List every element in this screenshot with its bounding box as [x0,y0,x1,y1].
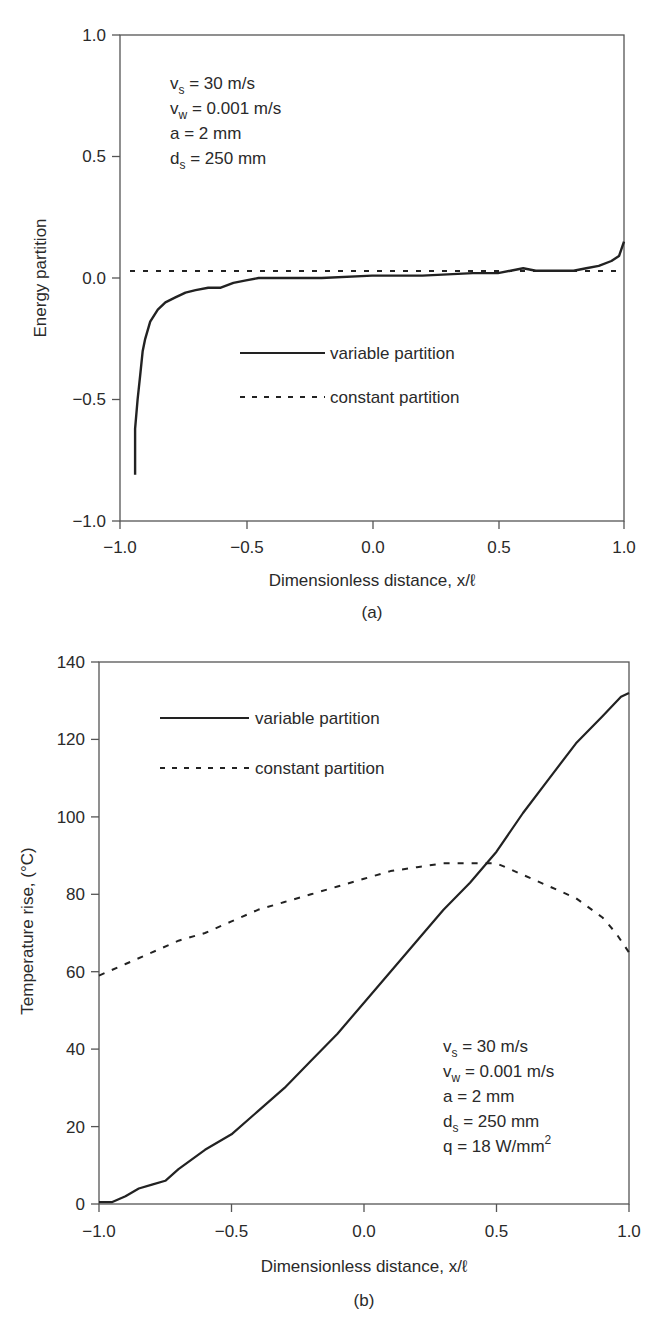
param-ds: ds = 250 mm [170,149,266,172]
y-tick-label: 60 [66,963,85,982]
param-q: q = 18 W/mm2 [443,1133,552,1156]
panel-a-y-tick-labels: 1.0 0.5 0.0 −0.5 −1.0 [72,26,106,531]
y-tick-label: 80 [66,885,85,904]
panel-a-caption: (a) [362,603,383,622]
param-vs: vs = 30 m/s [170,74,255,97]
y-tick-label: 20 [66,1118,85,1137]
x-tick-label: 1.0 [617,1222,641,1241]
x-tick-label: 0.0 [352,1222,376,1241]
legend-constant-label: constant partition [255,759,384,778]
panel-a-parameters-annotation: vs = 30 m/s vw = 0.001 m/s a = 2 mm ds =… [170,74,281,172]
panel-b-y-ticks [91,662,99,1204]
figure: 1.0 0.5 0.0 −0.5 −1.0 −1.0 −0.5 0.0 0.5 … [0,0,663,1338]
panel-a-x-ticks [120,521,624,529]
legend-variable-label: variable partition [330,344,455,363]
panel-b-x-axis-label: Dimensionless distance, x/ℓ [261,1257,468,1276]
x-tick-label: 0.0 [361,538,385,557]
panel-a-y-axis-label: Energy partition [31,218,50,337]
x-tick-label: 0.5 [485,1222,509,1241]
param-vs: vs = 30 m/s [443,1037,528,1060]
legend-variable-label: variable partition [255,709,380,728]
y-tick-label: 40 [66,1040,85,1059]
panel-b: 140 120 100 80 60 40 20 0 −1.0 −0.5 0.0 … [18,653,641,1310]
x-tick-label: −1.0 [103,538,137,557]
legend-constant-label: constant partition [330,388,459,407]
panel-b-legend: variable partition constant partition [160,709,384,778]
y-tick-label: −0.5 [72,390,106,409]
param-a: a = 2 mm [443,1087,514,1106]
panel-a-x-tick-labels: −1.0 −0.5 0.0 0.5 1.0 [103,538,636,557]
panel-b-constant-partition-line [99,863,629,975]
panel-b-y-axis-label: Temperature rise, (°C) [18,847,37,1014]
param-vw: vw = 0.001 m/s [443,1062,554,1085]
param-ds: ds = 250 mm [443,1112,539,1135]
y-tick-label: 120 [57,730,85,749]
y-tick-label: 0 [76,1195,85,1214]
x-tick-label: 0.5 [487,538,511,557]
panel-b-plot-frame [99,662,629,1204]
y-tick-label: 140 [57,653,85,672]
panel-b-caption: (b) [354,1291,375,1310]
panel-a-legend: variable partition constant partition [240,344,459,407]
y-tick-label: 100 [57,808,85,827]
panel-b-parameters-annotation: vs = 30 m/s vw = 0.001 m/s a = 2 mm ds =… [443,1037,554,1156]
y-tick-label: 0.0 [82,269,106,288]
y-tick-label: 1.0 [82,26,106,45]
panel-b-x-tick-labels: −1.0 −0.5 0.0 0.5 1.0 [82,1222,641,1241]
x-tick-label: −0.5 [230,538,264,557]
panel-a: 1.0 0.5 0.0 −0.5 −1.0 −1.0 −0.5 0.0 0.5 … [31,26,636,622]
param-a: a = 2 mm [170,124,241,143]
x-tick-label: −0.5 [215,1222,249,1241]
panel-b-y-tick-labels: 140 120 100 80 60 40 20 0 [57,653,85,1214]
panel-a-x-axis-label: Dimensionless distance, x/ℓ [269,571,476,590]
x-tick-label: −1.0 [82,1222,116,1241]
x-tick-label: 1.0 [612,538,636,557]
y-tick-label: 0.5 [82,147,106,166]
panel-b-x-ticks [99,1204,629,1212]
param-vw: vw = 0.001 m/s [170,99,281,122]
panel-a-y-ticks [112,35,120,521]
y-tick-label: −1.0 [72,512,106,531]
